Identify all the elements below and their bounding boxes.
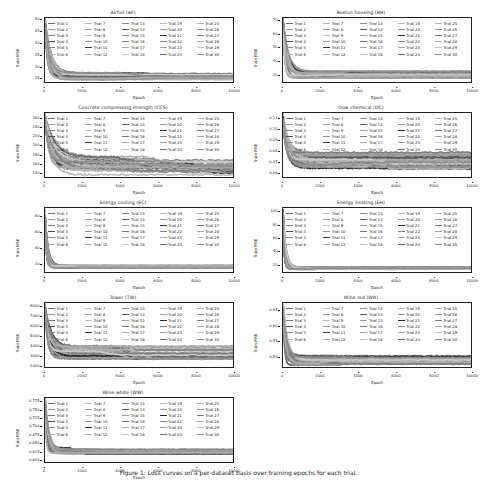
x-axis-label: Epoch — [282, 285, 472, 290]
series-line — [45, 416, 233, 452]
series-line — [45, 212, 233, 267]
series-line — [283, 214, 471, 269]
y-axis-ticks: 504540353025 — [14, 17, 42, 83]
series-line — [45, 26, 233, 76]
plot-area — [44, 17, 234, 83]
chart-panel: Energy heating (EH)Train MSE100806040200… — [242, 200, 480, 295]
x-axis-ticks: 0200040006000800010000 — [282, 87, 472, 93]
series-line — [45, 398, 233, 454]
series-line — [283, 303, 471, 360]
x-tick-label: 8000 — [191, 184, 200, 188]
series-line — [45, 215, 233, 268]
x-axis-ticks: 0200040006000800010000 — [44, 87, 234, 93]
series-line — [283, 121, 471, 155]
series-line — [283, 215, 471, 269]
series-line — [45, 211, 233, 267]
y-axis-ticks: 7060504030 — [252, 17, 280, 83]
series-line — [283, 210, 471, 267]
x-axis-label: Epoch — [44, 190, 234, 195]
y-tick-label: 80 — [35, 214, 40, 218]
series-line — [283, 308, 471, 361]
chart-title: Boston housing (BH) — [242, 10, 480, 16]
series-line — [45, 209, 233, 267]
series-line — [283, 25, 471, 77]
plot-area — [282, 302, 472, 368]
series-line — [45, 411, 233, 453]
series-line — [45, 27, 233, 78]
series-line — [45, 403, 233, 454]
series-line — [283, 303, 471, 362]
series-line — [45, 409, 233, 453]
series-line — [283, 212, 471, 268]
series-line — [283, 210, 471, 270]
x-tick-label: 4000 — [353, 184, 362, 188]
series-line — [45, 23, 233, 77]
y-tick-label: 20 — [35, 262, 40, 266]
x-axis-ticks: 0200040006000800010000 — [44, 277, 234, 283]
series-line — [283, 27, 471, 77]
y-tick-label: 40 — [35, 41, 40, 45]
x-axis-ticks: 0200040006000800010000 — [282, 277, 472, 283]
series-line — [45, 18, 233, 77]
series-line — [283, 26, 471, 77]
x-tick-label: 6000 — [153, 374, 162, 378]
y-tick-label: 20 — [273, 263, 278, 267]
x-tick-label: 0 — [43, 89, 45, 93]
y-tick-label: 5000 — [30, 334, 39, 338]
series-line — [283, 212, 471, 268]
y-tick-label: 0.06 — [269, 171, 277, 175]
series-line — [45, 214, 233, 267]
y-tick-label: 40 — [273, 249, 278, 253]
series-line — [283, 210, 471, 267]
x-tick-label: 4000 — [115, 279, 124, 283]
series-line — [283, 303, 471, 356]
y-tick-label: 240 — [32, 125, 39, 129]
chart-title: Wine white (WW) — [4, 390, 242, 396]
series-line — [45, 209, 233, 267]
y-tick-label: 45 — [35, 29, 40, 33]
y-tick-label: 180 — [32, 153, 39, 157]
series-line — [45, 400, 233, 454]
series-line — [45, 210, 233, 268]
y-tick-label: 50 — [273, 45, 278, 49]
x-tick-label: 0 — [43, 279, 45, 283]
series-line — [283, 20, 471, 72]
series-line — [283, 210, 471, 267]
series-line — [45, 215, 233, 267]
x-tick-label: 10000 — [228, 279, 240, 283]
series-line — [45, 21, 233, 76]
y-axis-ticks: 0.110.100.090.080.070.06 — [252, 112, 280, 178]
series-line — [45, 21, 233, 77]
series-line — [283, 215, 471, 269]
series-line — [45, 213, 233, 265]
series-line — [283, 210, 471, 267]
series-line — [283, 24, 471, 76]
series-line — [45, 215, 233, 266]
chart-panel: Wine red (WR)Train MSE0.650.600.550.5002… — [242, 295, 480, 390]
series-line — [45, 414, 233, 451]
y-tick-label: 200 — [32, 143, 39, 147]
chart-title: Airfoil (AF) — [4, 10, 242, 16]
series-line — [283, 215, 471, 269]
x-tick-label: 6000 — [153, 89, 162, 93]
series-line — [283, 211, 471, 269]
series-line — [283, 211, 471, 268]
x-tick-label: 10000 — [228, 374, 240, 378]
series-line — [45, 24, 233, 80]
x-tick-label: 2000 — [77, 279, 86, 283]
x-tick-label: 2000 — [77, 374, 86, 378]
chart-panel: Airfoil (AF)Train MSE5045403530250200040… — [4, 10, 242, 105]
series-line — [45, 215, 233, 268]
chart-title: Wine red (WR) — [242, 295, 480, 301]
x-tick-label: 0 — [281, 184, 283, 188]
series-line — [45, 24, 233, 77]
y-tick-label: 0.650 — [29, 441, 40, 445]
series-line — [283, 314, 471, 361]
figure-caption: Figure 1: Loss curves on a per-dataset b… — [0, 468, 477, 488]
series-line — [45, 18, 233, 80]
chart-title: Tower (TW) — [4, 295, 242, 301]
series-line — [283, 211, 471, 269]
plot-area — [44, 112, 234, 178]
y-axis-ticks: 8000700060005000400030002000 — [14, 302, 42, 368]
